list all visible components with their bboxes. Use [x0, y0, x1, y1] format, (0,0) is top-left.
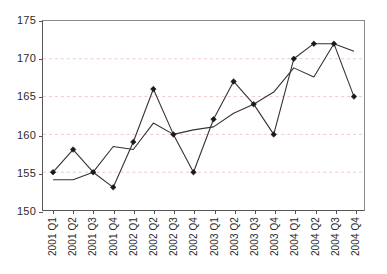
data-point-marker [211, 117, 217, 123]
x-tick-label: 2002 Q4 [188, 217, 199, 256]
plot-area [42, 20, 365, 211]
x-tick-label: 2003 Q1 [208, 217, 219, 256]
y-tick-label: 175 [17, 14, 36, 26]
x-tick-label: 2001 Q1 [47, 217, 58, 256]
data-point-marker [151, 86, 157, 92]
y-tick-mark [39, 136, 43, 137]
x-tick-label: 2003 Q3 [248, 217, 259, 256]
y-tick-label: 160 [17, 129, 36, 141]
y-tick-mark [39, 21, 43, 22]
x-tick-label: 2004 Q2 [309, 217, 320, 256]
x-tick-label: 2001 Q2 [67, 217, 78, 256]
x-axis-labels: 2001 Q12001 Q22001 Q32001 Q42002 Q12002 … [42, 211, 365, 274]
x-tick-label: 2004 Q3 [329, 217, 340, 256]
data-point-marker [171, 132, 177, 138]
y-tick-mark [39, 174, 43, 175]
x-tick-label: 2002 Q3 [168, 217, 179, 256]
x-tick-label: 2001 Q4 [107, 217, 118, 256]
y-tick-label: 170 [17, 52, 36, 64]
x-tick-label: 2004 Q4 [349, 217, 360, 256]
y-tick-mark [39, 97, 43, 98]
y-tick-label: 165 [17, 90, 36, 102]
series-line-2 [53, 44, 354, 180]
line-chart: 150155160165170175 2001 Q12001 Q22001 Q3… [0, 0, 387, 274]
y-axis-labels: 150155160165170175 [0, 20, 36, 211]
x-tick-label: 2003 Q4 [269, 217, 280, 256]
y-tick-label: 155 [17, 167, 36, 179]
data-point-marker [351, 94, 357, 100]
x-tick-label: 2001 Q3 [87, 217, 98, 256]
y-tick-mark [39, 59, 43, 60]
x-tick-label: 2003 Q2 [228, 217, 239, 256]
data-point-marker [331, 41, 337, 47]
data-point-marker [130, 139, 136, 145]
data-point-marker [191, 169, 197, 175]
x-tick-label: 2004 Q1 [289, 217, 300, 256]
y-tick-label: 150 [17, 205, 36, 217]
series-layer [43, 21, 364, 210]
x-tick-label: 2002 Q2 [148, 217, 159, 256]
x-tick-label: 2002 Q1 [127, 217, 138, 256]
data-point-marker [271, 132, 277, 138]
